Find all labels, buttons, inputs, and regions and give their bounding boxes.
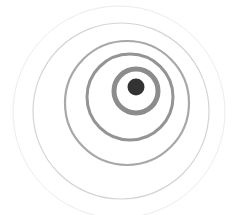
center-dot-icon (128, 79, 145, 96)
background (0, 0, 234, 215)
ripple-signal-icon (0, 0, 234, 215)
